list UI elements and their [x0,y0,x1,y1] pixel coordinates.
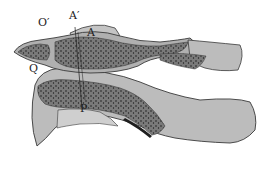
upper-process-cancellous [160,53,206,69]
label-a-prime: A′ [69,10,79,21]
label-o-prime: O′ [38,17,50,28]
label-a: A [87,27,95,38]
label-p: P [80,103,87,114]
label-q: Q [29,63,38,74]
